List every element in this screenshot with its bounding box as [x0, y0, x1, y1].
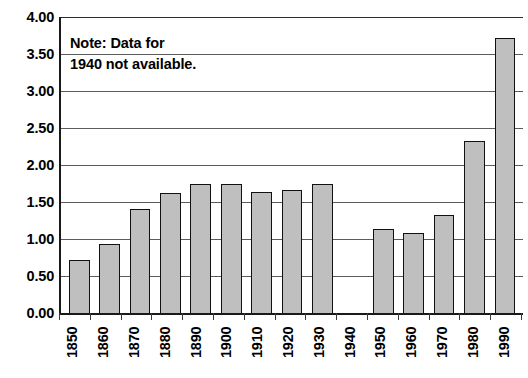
x-axis-labels: 1850186018701880189019001910192019301940… [59, 320, 521, 378]
x-tick [213, 313, 214, 320]
bar [221, 184, 242, 313]
x-tick [398, 313, 399, 320]
y-tick-label: 2.00 [2, 158, 54, 173]
x-tick-label: 1930 [311, 302, 327, 358]
y-tick-label: 1.50 [2, 195, 54, 210]
bar-slot [216, 17, 246, 313]
x-tick [275, 313, 276, 320]
x-tick-label: 1970 [434, 302, 450, 358]
x-tick [429, 313, 430, 320]
y-tick-label: 1.00 [2, 232, 54, 247]
y-tick-label: 0.00 [2, 306, 54, 321]
x-tick [336, 313, 337, 320]
bar-slot [338, 17, 368, 313]
bar-slot [429, 17, 459, 313]
bar [373, 229, 394, 313]
y-axis-labels: 0.000.501.001.502.002.503.003.504.00 [0, 0, 54, 378]
bar [130, 209, 151, 313]
bar-slot [459, 17, 489, 313]
x-tick [59, 313, 60, 320]
x-tick [90, 313, 91, 320]
bar-slot [490, 17, 520, 313]
bar-chart: 0.000.501.001.502.002.503.003.504.00 185… [0, 0, 528, 378]
bar [312, 184, 333, 313]
bar-slot [246, 17, 276, 313]
bar-slot [277, 17, 307, 313]
x-tick-label: 1870 [126, 302, 142, 358]
y-tick-label: 3.50 [2, 47, 54, 62]
x-tick-label: 1940 [342, 302, 358, 358]
bar [495, 38, 516, 313]
x-tick [459, 313, 460, 320]
bar [464, 141, 485, 313]
x-tick [151, 313, 152, 320]
x-tick-label: 1860 [95, 302, 111, 358]
y-tick-label: 0.50 [2, 269, 54, 284]
bar [190, 184, 211, 313]
x-tick [121, 313, 122, 320]
x-tick-label: 1980 [465, 302, 481, 358]
x-tick-label: 1890 [188, 302, 204, 358]
bar-slot [307, 17, 337, 313]
y-tick-label: 2.50 [2, 121, 54, 136]
y-tick-label: 4.00 [2, 10, 54, 25]
x-tick-label: 1900 [218, 302, 234, 358]
x-tick-label: 1910 [249, 302, 265, 358]
x-tick [305, 313, 306, 320]
x-tick-label: 1920 [280, 302, 296, 358]
x-tick [490, 313, 491, 320]
bar [434, 215, 455, 313]
bar-slot [398, 17, 428, 313]
x-tick [244, 313, 245, 320]
x-tick-label: 1850 [64, 302, 80, 358]
x-tick [182, 313, 183, 320]
missing-data-note: Note: Data for 1940 not available. [70, 33, 196, 75]
x-tick-label: 1950 [372, 302, 388, 358]
x-tick [521, 313, 522, 320]
x-tick [367, 313, 368, 320]
bar-slot [368, 17, 398, 313]
x-tick-label: 1990 [496, 302, 512, 358]
bar [282, 190, 303, 313]
bar [403, 233, 424, 313]
x-tick-label: 1960 [403, 302, 419, 358]
bar [160, 193, 181, 313]
bar [251, 192, 272, 313]
x-tick-label: 1880 [157, 302, 173, 358]
y-tick-label: 3.00 [2, 84, 54, 99]
